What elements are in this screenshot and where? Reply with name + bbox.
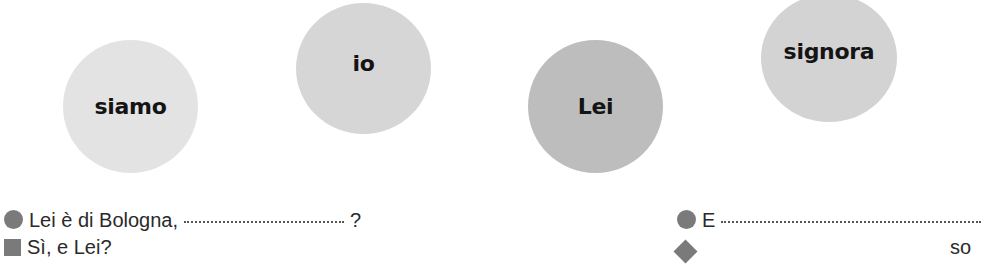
word-bubble-io: io: [296, 3, 431, 134]
dialogue-line: Sì, e Lei?: [4, 236, 112, 259]
fill-in-blank[interactable]: [721, 220, 981, 223]
dialogue-line: Lei è di Bologna, ?: [4, 208, 361, 232]
speaker-square-icon: [4, 239, 21, 256]
bubble-label: siamo: [94, 94, 166, 119]
word-bubble-signora: signora: [761, 0, 897, 122]
bubble-label: signora: [784, 39, 875, 64]
dialogue-text: Lei è di Bologna,: [29, 209, 178, 232]
speaker-diamond-icon: [673, 239, 697, 263]
bubble-label: io: [352, 51, 374, 76]
dialogue-text-partial: so: [950, 236, 971, 259]
bubble-label: Lei: [578, 94, 614, 119]
dialogue-line: so: [677, 236, 971, 259]
dialogue-line: E: [677, 208, 985, 232]
speaker-circle-icon: [677, 210, 696, 229]
speaker-circle-icon: [4, 210, 23, 229]
word-bubble-lei: Lei: [528, 40, 663, 173]
dialogue-text: Sì, e Lei?: [27, 236, 112, 259]
dialogue-punct: ?: [350, 209, 361, 232]
dialogue-text: E: [702, 209, 715, 232]
word-bubble-siamo: siamo: [63, 40, 198, 173]
fill-in-blank[interactable]: [184, 220, 344, 223]
